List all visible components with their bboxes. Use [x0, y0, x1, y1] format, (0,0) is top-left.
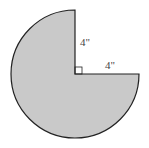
diagram: 4" 4" [0, 0, 149, 148]
right-angle-marker [75, 67, 82, 74]
horizontal-radius-label: 4" [105, 59, 115, 71]
vertical-radius-label: 4" [80, 36, 90, 48]
